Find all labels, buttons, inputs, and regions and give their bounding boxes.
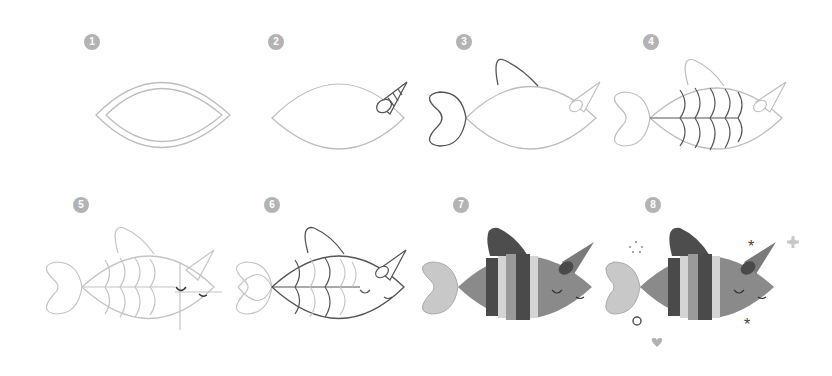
asterisk-sparkle-icon: * [748,238,754,255]
decorated-fish-icon: * * [0,0,832,376]
star-sparkle-icon: * [744,316,750,333]
